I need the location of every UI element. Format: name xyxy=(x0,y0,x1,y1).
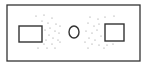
stipple-dot xyxy=(51,17,52,18)
stipple-dot xyxy=(59,25,60,26)
stipple-dot xyxy=(87,22,88,23)
left-stipple-dots xyxy=(35,14,60,48)
stipple-dot xyxy=(59,41,60,42)
stipple-dot xyxy=(41,20,42,21)
stipple-dot xyxy=(106,44,107,45)
stipple-dot xyxy=(43,43,44,44)
stipple-dot xyxy=(47,22,48,23)
stipple-dot xyxy=(43,14,44,15)
stipple-dot xyxy=(49,27,50,28)
stipple-dot xyxy=(57,39,58,40)
stipple-dot xyxy=(97,18,98,19)
stipple-dot xyxy=(103,47,104,48)
right-stipple-dots xyxy=(84,15,114,48)
stipple-dot xyxy=(54,47,55,48)
stipple-dot xyxy=(113,15,114,16)
stipple-dot xyxy=(104,16,105,17)
stipple-dot xyxy=(87,47,88,48)
stipple-dot xyxy=(100,35,101,36)
stipple-dot xyxy=(54,30,55,31)
outer-frame xyxy=(7,5,140,61)
center-circle xyxy=(69,26,79,38)
stipple-dot xyxy=(94,39,95,40)
stipple-dot xyxy=(51,43,52,44)
stipple-dot xyxy=(98,44,99,45)
right-box xyxy=(105,24,124,41)
stipple-dot xyxy=(45,39,46,40)
stipple-dot xyxy=(91,43,92,44)
stipple-dot xyxy=(88,37,89,38)
stipple-dot xyxy=(37,47,38,48)
stipple-dot xyxy=(98,23,99,24)
stipple-dot xyxy=(91,32,92,33)
stipple-dot xyxy=(52,37,53,38)
stipple-dot xyxy=(58,32,59,33)
stipple-dot xyxy=(93,25,94,26)
stipple-dot xyxy=(112,43,113,44)
stipple-dot xyxy=(55,23,56,24)
sketch-diagram xyxy=(0,0,149,65)
stipple-dot xyxy=(48,34,49,35)
stipple-dot xyxy=(96,29,97,30)
stipple-dot xyxy=(89,16,90,17)
sketch-svg xyxy=(0,0,149,65)
stipple-dot xyxy=(84,41,85,42)
stipple-dot xyxy=(35,15,36,16)
stipple-dot xyxy=(46,47,47,48)
stipple-dot xyxy=(85,30,86,31)
stipple-dot xyxy=(44,29,45,30)
left-box xyxy=(19,26,42,42)
